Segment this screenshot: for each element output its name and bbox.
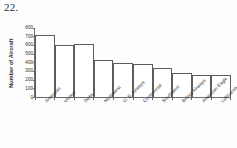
x-label-slot: American [34,99,54,147]
bar-slot [74,28,94,98]
bar [35,35,55,97]
x-label-slot: U. S. Airways [112,99,132,147]
y-tick-mark [33,62,36,63]
x-label-slot: Southwest [152,99,172,147]
bar-slot [94,28,114,98]
x-label-slot: Continental [132,99,152,147]
x-axis-tick-labels: AmericanUnitedDeltaNorthwestU. S. Airway… [34,99,230,148]
y-axis-tick-labels: 8007006005004003002001000 [18,24,33,99]
x-label-slot: British Airways [171,99,191,147]
bar [74,44,94,97]
figure-page: 22. Number of Aircraft 80070060050040030… [0,0,237,148]
bar-slot [35,28,55,98]
x-label-slot: Northwest [93,99,113,147]
y-tick-mark [33,80,36,81]
plot-area [34,28,231,99]
y-tick-mark [33,88,36,89]
y-tick-mark [33,71,36,72]
bar-chart: Number of Aircraft 800700600500400300200… [0,22,237,148]
x-label-slot: United [54,99,74,147]
y-axis-title: Number of Aircraft [8,33,14,93]
x-label-slot: American Eagle [191,99,211,147]
x-label-slot: Lufthansa (Ger.) [210,99,230,147]
y-tick-mark [33,45,36,46]
y-tick-mark [33,28,36,29]
x-tick-mark [230,97,231,100]
problem-number: 22. [4,1,18,13]
y-tick-mark [33,97,36,98]
y-tick-mark [33,36,36,37]
y-tick-mark [33,54,36,55]
x-label-slot: Delta [73,99,93,147]
bar-series [35,28,231,98]
